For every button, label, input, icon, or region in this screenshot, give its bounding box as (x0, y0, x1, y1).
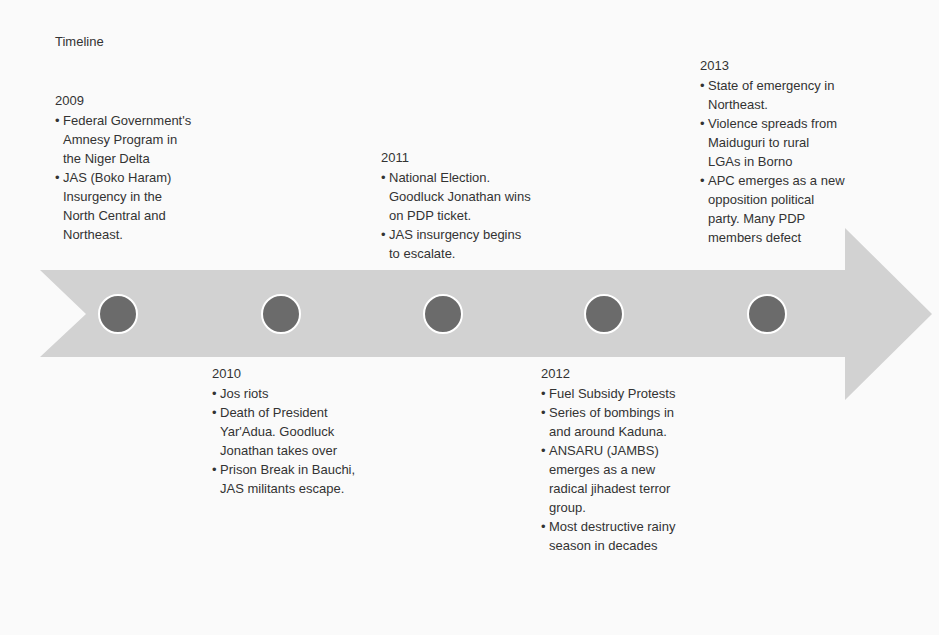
event-bullet: State of emergency in Northeast. (700, 76, 845, 114)
event-bullet: Fuel Subsidy Protests (541, 384, 686, 403)
event-2011: 2011 National Election. Goodluck Jonatha… (381, 148, 531, 263)
event-bullet: APC emerges as a new opposition politica… (700, 171, 845, 247)
timeline-marker-2012 (584, 294, 624, 334)
event-bullet: Federal Government's Amnesy Program in t… (55, 111, 195, 168)
event-year: 2009 (55, 91, 195, 110)
event-bullet: Most destructive rainy season in decades (541, 517, 686, 555)
event-bullet: ANSARU (JAMBS) emerges as a new radical … (541, 441, 686, 517)
event-bullet: Death of President Yar'Adua. Goodluck Jo… (212, 403, 362, 460)
event-year: 2010 (212, 364, 362, 383)
timeline-marker-2011 (423, 294, 463, 334)
event-bullet: JAS (Boko Haram) Insurgency in the North… (55, 168, 195, 244)
event-2009: 2009 Federal Government's Amnesy Program… (55, 91, 195, 244)
timeline-marker-2013 (747, 294, 787, 334)
event-2010: 2010 Jos riots Death of President Yar'Ad… (212, 364, 362, 498)
event-year: 2011 (381, 148, 531, 167)
event-bullet: Prison Break in Bauchi, JAS militants es… (212, 460, 362, 498)
event-year: 2013 (700, 56, 845, 75)
timeline-marker-2009 (98, 294, 138, 334)
event-2013: 2013 State of emergency in Northeast. Vi… (700, 56, 845, 247)
event-bullet: Jos riots (212, 384, 362, 403)
event-bullet: National Election. Goodluck Jonathan win… (381, 168, 531, 225)
event-bullet: Series of bombings in and around Kaduna. (541, 403, 686, 441)
event-year: 2012 (541, 364, 686, 383)
timeline-marker-2010 (261, 294, 301, 334)
event-bullet: JAS insurgency begins to escalate. (381, 225, 531, 263)
event-2012: 2012 Fuel Subsidy Protests Series of bom… (541, 364, 686, 555)
event-bullet: Violence spreads from Maiduguri to rural… (700, 114, 845, 171)
